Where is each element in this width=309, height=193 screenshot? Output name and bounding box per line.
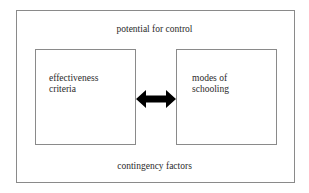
effectiveness-criteria-label: effectiveness criteria <box>49 73 98 95</box>
double-headed-arrow-icon <box>136 90 176 108</box>
effectiveness-criteria-box: effectiveness criteria <box>35 49 136 145</box>
potential-for-control-label: potential for control <box>0 24 309 35</box>
contingency-factors-label: contingency factors <box>0 161 309 172</box>
modes-of-schooling-box: modes of schooling <box>176 49 277 145</box>
modes-of-schooling-label: modes of schooling <box>192 73 229 95</box>
